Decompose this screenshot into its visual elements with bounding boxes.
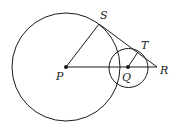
point-p-dot (64, 65, 68, 69)
label-p: P (55, 70, 64, 83)
segment-ps (66, 24, 99, 67)
point-q-dot (126, 65, 130, 69)
label-s: S (100, 9, 108, 22)
label-r: R (159, 64, 168, 77)
label-t: T (141, 39, 150, 52)
label-q: Q (122, 71, 131, 84)
geometry-diagram: S T P Q R (0, 0, 178, 128)
segment-qt (128, 52, 138, 67)
